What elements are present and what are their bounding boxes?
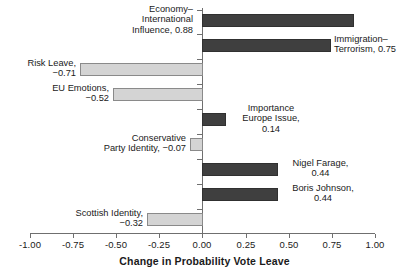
- x-axis-tick-label: -1.00: [7, 239, 53, 250]
- x-axis-tick: [30, 234, 31, 238]
- x-axis-tick: [332, 234, 333, 238]
- x-axis-tick-label: 0.75: [309, 239, 355, 250]
- x-axis-title: Change in Probability Vote Leave: [0, 255, 409, 267]
- bar-label-eu-emotions: EU Emotions, −0.52: [24, 83, 109, 104]
- x-axis-tick: [159, 234, 160, 238]
- bar-label-boris-johnson: Boris Johnson, 0.44: [283, 183, 363, 204]
- bar-conservative-party-identity: [190, 138, 203, 151]
- bar-label-nigel-farage: Nigel Farage, 0.44: [283, 158, 358, 179]
- category-tick: [197, 84, 202, 85]
- bar-label-risk-leave: Risk Leave, −0.71: [0, 58, 76, 79]
- category-tick: [197, 184, 202, 185]
- x-axis-tick: [289, 234, 290, 238]
- plot-area: Economy– International Influence, 0.88 I…: [0, 0, 409, 273]
- category-tick: [197, 59, 202, 60]
- x-axis-tick: [375, 234, 376, 238]
- bar-label-scottish-identity: Scottish Identity, −0.32: [55, 208, 143, 229]
- x-axis-tick-label: 0.50: [266, 239, 312, 250]
- x-axis-tick-label: -0.25: [136, 239, 182, 250]
- x-axis-tick: [116, 234, 117, 238]
- x-axis-tick: [246, 234, 247, 238]
- x-axis-tick-label: 0.25: [223, 239, 269, 250]
- bar-risk-leave: [80, 63, 203, 76]
- category-tick: [197, 10, 202, 11]
- bar-nigel-farage: [202, 163, 278, 176]
- bar-label-conservative-party-identity: Conservative Party Identity, −0.07: [58, 133, 186, 154]
- x-axis-tick-label: -0.75: [50, 239, 96, 250]
- bar-chart: Economy– International Influence, 0.88 I…: [0, 0, 409, 273]
- bar-economy-international-influence: [202, 14, 354, 27]
- bar-label-economy-international-influence: Economy– International Influence, 0.88: [78, 4, 193, 35]
- x-axis-tick: [202, 234, 203, 238]
- bar-boris-johnson: [202, 188, 278, 201]
- x-axis-tick: [73, 234, 74, 238]
- category-tick: [197, 34, 202, 35]
- bar-label-immigration-terrorism: Immigration– Terrorism, 0.75: [334, 34, 409, 55]
- category-tick: [197, 134, 202, 135]
- bar-scottish-identity: [147, 213, 203, 226]
- x-axis-tick-label: 0.00: [179, 239, 225, 250]
- bar-label-importance-europe-issue: Importance Europe Issue, 0.14: [230, 103, 312, 134]
- category-tick: [197, 109, 202, 110]
- x-axis-tick-label: -0.50: [93, 239, 139, 250]
- bar-importance-europe-issue: [202, 113, 226, 126]
- category-tick: [197, 159, 202, 160]
- bar-immigration-terrorism: [202, 39, 331, 52]
- bar-eu-emotions: [113, 88, 203, 101]
- x-axis-tick-label: 1.00: [352, 239, 398, 250]
- category-tick: [197, 209, 202, 210]
